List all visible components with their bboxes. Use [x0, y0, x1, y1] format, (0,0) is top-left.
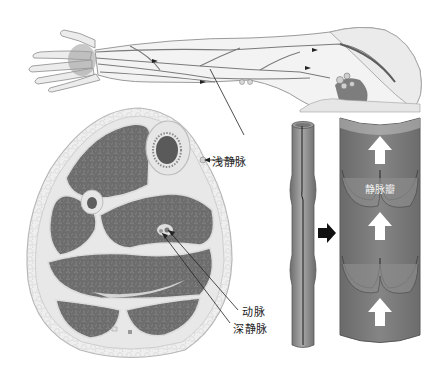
label-venous-valve: 静脉瓣	[365, 181, 395, 196]
label-deep-vein: 深静脉	[233, 320, 268, 336]
label-superficial-vein: 浅静脉	[212, 153, 247, 169]
vein-tube	[290, 122, 316, 348]
limb-cross-section	[27, 108, 232, 358]
vein-interior	[340, 118, 420, 343]
transition-arrow-icon	[318, 223, 336, 243]
label-artery: 动脉	[242, 303, 265, 319]
